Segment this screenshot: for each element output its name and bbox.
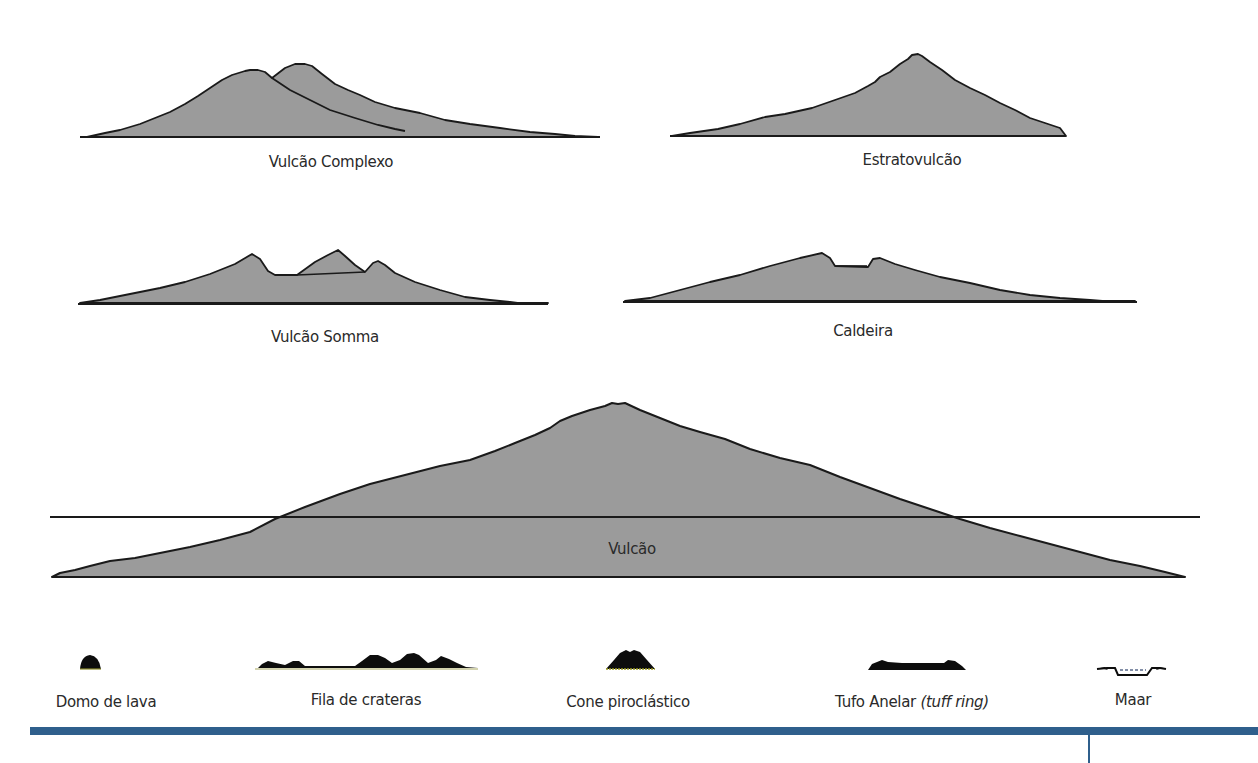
profile-vulcao-somma (78, 250, 548, 304)
fila-de-crateras-icon (255, 653, 478, 669)
label-estratovulcao: Estratovulcão (863, 151, 962, 169)
label-vulcao-somma: Vulcão Somma (271, 328, 379, 346)
profile-estratovulcao (670, 54, 1066, 136)
tuff-ring-italic-text: (tuff ring) (920, 693, 989, 711)
profile-caldeira (623, 253, 1137, 302)
label-vulcao-complexo: Vulcão Complexo (269, 153, 393, 171)
domo-de-lava-icon (80, 655, 101, 669)
accent-bar (30, 727, 1258, 735)
cone-piroclastico-icon (606, 650, 655, 669)
label-domo-de-lava: Domo de lava (56, 693, 157, 711)
label-fila-de-crateras: Fila de crateras (311, 691, 421, 709)
tufo-anelar-icon (868, 660, 966, 670)
label-tufo-anelar: Tufo Anelar (tuff ring) (835, 693, 989, 711)
profile-vulcao-complexo (80, 64, 600, 137)
label-vulcao: Vulcão (608, 540, 656, 558)
label-maar: Maar (1115, 691, 1151, 709)
label-caldeira: Caldeira (833, 322, 893, 340)
maar-icon (1097, 667, 1166, 675)
column-divider (1088, 735, 1090, 763)
tufo-anelar-text: Tufo Anelar (835, 693, 916, 711)
label-cone-piroclastico: Cone piroclástico (566, 693, 690, 711)
volcano-profiles-diagram (0, 0, 1258, 763)
